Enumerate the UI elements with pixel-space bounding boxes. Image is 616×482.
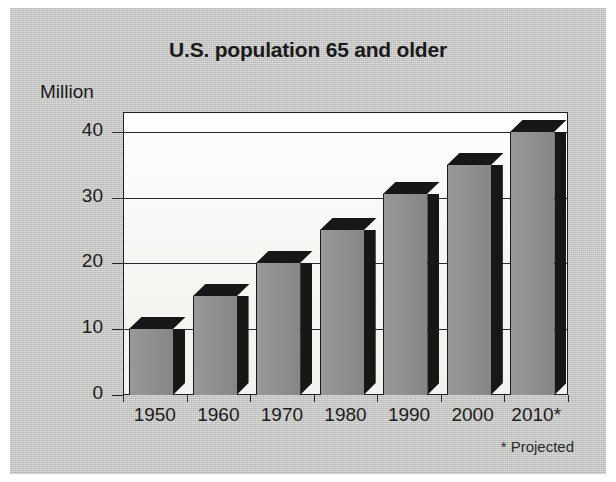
y-tick-mark [112,132,123,133]
x-tick-label: 1990 [377,404,441,426]
x-tick-mark [504,395,505,402]
bar-top-face [510,120,566,132]
bar-top-face [193,284,249,296]
page-title: U.S. population 65 and older [0,38,616,62]
bar-front-face [256,263,300,395]
bar-front-face [320,230,364,395]
bar-1980 [320,218,376,395]
x-tick-mark [123,395,124,402]
x-tick-mark [377,395,378,402]
x-tick-label: 1970 [250,404,314,426]
bar-top-face [129,317,185,329]
x-tick-mark [568,395,569,402]
bar-top-face [320,218,376,230]
y-tick-label: 40 [61,119,103,141]
bar-front-face [129,329,173,395]
bar-side-face [364,230,376,395]
gridline [123,132,568,133]
bar-side-face [237,296,249,395]
x-tick-label: 1980 [314,404,378,426]
x-tick-label: 2000 [441,404,505,426]
bar-side-face [173,329,185,395]
bar-front-face [193,296,237,395]
y-tick-mark [112,395,123,396]
x-tick-label: 1950 [123,404,187,426]
y-tick-label: 20 [61,250,103,272]
x-tick-mark [187,395,188,402]
bar-1950 [129,317,185,395]
y-tick-label: 30 [61,185,103,207]
x-tick-mark [250,395,251,402]
y-axis-unit-label: Million [40,81,94,103]
bar-1990 [383,182,439,395]
bar-front-face [447,165,491,395]
projection-footnote: * Projected [501,438,574,455]
bar-side-face [554,132,566,395]
bar-side-face [300,263,312,395]
x-tick-label: 1960 [187,404,251,426]
y-tick-mark [112,329,123,330]
bar-front-face [510,132,554,395]
bar-1960 [193,284,249,395]
x-tick-mark [314,395,315,402]
bar-side-face [427,194,439,395]
bar-side-face [491,165,503,395]
bar-front-face [383,194,427,395]
bar-2000 [447,153,503,395]
chart-figure: U.S. population 65 and older Million 010… [0,0,616,482]
bar-top-face [256,251,312,263]
y-tick-label: 10 [61,316,103,338]
bar-1970 [256,251,312,395]
x-tick-label: 2010* [504,404,568,426]
bar-top-face [383,182,439,194]
bar-2010 [510,120,566,395]
y-tick-label: 0 [61,382,103,404]
bar-top-face [447,153,503,165]
y-tick-mark [112,263,123,264]
x-tick-mark [441,395,442,402]
y-tick-mark [112,198,123,199]
